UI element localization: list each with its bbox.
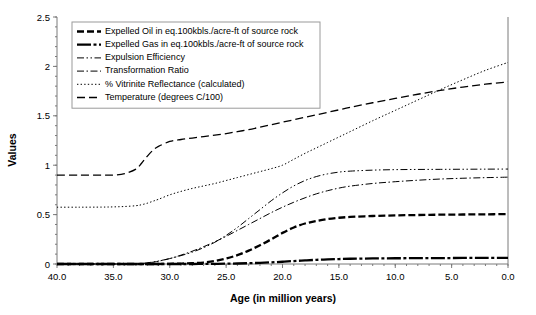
- y-tick-label: 0: [45, 259, 50, 270]
- x-tick-label: 0.0: [501, 271, 514, 282]
- x-tick-label: 20.0: [273, 271, 292, 282]
- legend-label: Expulsion Efficiency: [105, 52, 185, 62]
- legend-label: Expelled Gas in eq.100kbls./acre-ft of s…: [105, 39, 304, 49]
- legend-label: Expelled Oil in eq.100kbls./acre-ft of s…: [105, 26, 299, 36]
- x-tick-label: 35.0: [104, 271, 123, 282]
- x-tick-label: 15.0: [330, 271, 349, 282]
- y-tick-label: 0.5: [37, 209, 50, 220]
- line-chart: 40.035.030.025.020.015.010.05.00.0 00.51…: [0, 0, 536, 315]
- legend-label: Temperature (degrees C/100): [105, 92, 223, 102]
- x-tick-label: 5.0: [445, 271, 458, 282]
- legend-label: Transformation Ratio: [105, 65, 189, 75]
- x-tick-label: 25.0: [217, 271, 236, 282]
- x-axis-title: Age (in million years): [230, 292, 336, 304]
- x-axis-tick-labels: 40.035.030.025.020.015.010.05.00.0: [48, 271, 515, 282]
- x-tick-label: 40.0: [48, 271, 67, 282]
- y-tick-label: 1: [45, 160, 50, 171]
- x-tick-label: 10.0: [386, 271, 405, 282]
- chart-legend: Expelled Oil in eq.100kbls./acre-ft of s…: [72, 22, 320, 108]
- y-tick-label: 2: [45, 61, 50, 72]
- y-axis-title: Values: [6, 133, 18, 166]
- x-tick-label: 30.0: [161, 271, 180, 282]
- y-tick-label: 1.5: [37, 110, 50, 121]
- y-tick-label: 2.5: [37, 12, 50, 23]
- chart-container: 40.035.030.025.020.015.010.05.00.0 00.51…: [0, 0, 536, 315]
- legend-label: % Vitrinite Reflectance (calculated): [105, 79, 244, 89]
